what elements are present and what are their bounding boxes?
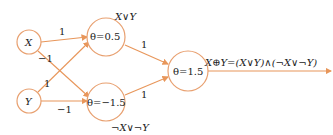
weight-x-h1: 1	[59, 26, 65, 37]
h1-annotation: X∨Y	[114, 11, 137, 22]
node-out-label: θ=1.5	[173, 66, 203, 77]
weight-h2-out: 1	[141, 89, 147, 100]
node-h2-label: θ=−1.5	[87, 97, 126, 108]
out-annotation: X⊕Y=(X∨Y)∧(¬X∨¬Y)	[204, 57, 317, 68]
weight-x-h2: −1	[38, 53, 53, 64]
weight-y-h2: −1	[57, 104, 72, 115]
node-x-label: X	[24, 37, 33, 48]
h2-annotation: ¬X∨¬Y	[111, 122, 150, 133]
weight-h1-out: 1	[141, 39, 147, 50]
weight-y-h1: 1	[44, 78, 50, 89]
neural-network-diagram: X Y θ=0.5 θ=−1.5 θ=1.5 X∨Y ¬X∨¬Y X⊕Y=(X∨…	[0, 0, 333, 135]
node-h1-label: θ=0.5	[90, 31, 120, 42]
edge-x-h1	[41, 37, 87, 42]
